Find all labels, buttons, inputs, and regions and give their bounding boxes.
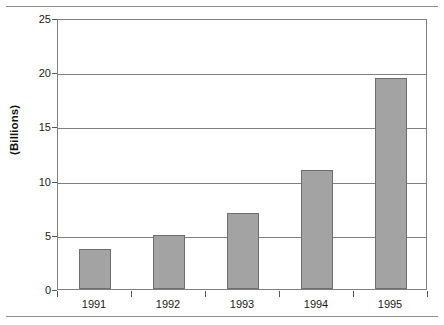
x-axis-tick-mark	[279, 291, 280, 297]
bar-1992	[153, 235, 185, 289]
plot-area	[57, 19, 427, 290]
y-axis-tick-label: 5	[45, 230, 51, 242]
y-axis-tick-label: 10	[39, 176, 51, 188]
y-axis-tick-mark	[52, 127, 57, 128]
y-axis-tick-label: 20	[39, 67, 51, 79]
x-axis-tick-mark	[131, 291, 132, 297]
bottom-divider-rule	[6, 316, 438, 317]
x-axis-tick-label: 1993	[230, 298, 254, 310]
bar-1991	[79, 249, 111, 289]
x-axis-tick-label: 1991	[82, 298, 106, 310]
x-axis-tick-mark	[205, 291, 206, 297]
x-axis-tick-label: 1994	[304, 298, 328, 310]
bar-1993	[227, 213, 259, 289]
y-axis-title: (Billions)	[8, 105, 20, 155]
y-axis-tick-labels: 0510152025	[28, 19, 51, 290]
top-divider-rule	[6, 6, 438, 7]
y-axis-tick-mark	[52, 236, 57, 237]
x-axis-tick-mark	[353, 291, 354, 297]
y-axis-tick-mark	[52, 73, 57, 74]
bar-1995	[375, 78, 407, 289]
chart-figure: (Billions) 0510152025 199119921993199419…	[0, 0, 444, 325]
x-axis-tick-mark	[57, 291, 58, 297]
y-axis-tick-label: 25	[39, 13, 51, 25]
bar-1994	[301, 170, 333, 289]
y-axis-tick-label: 0	[45, 284, 51, 296]
x-axis-tick-mark	[427, 291, 428, 297]
y-axis-tick-mark	[52, 19, 57, 20]
bar-series	[58, 20, 426, 289]
x-axis-tick-label: 1992	[156, 298, 180, 310]
y-axis-tick-label: 15	[39, 121, 51, 133]
x-axis-tick-label: 1995	[378, 298, 402, 310]
y-axis-tick-mark	[52, 182, 57, 183]
